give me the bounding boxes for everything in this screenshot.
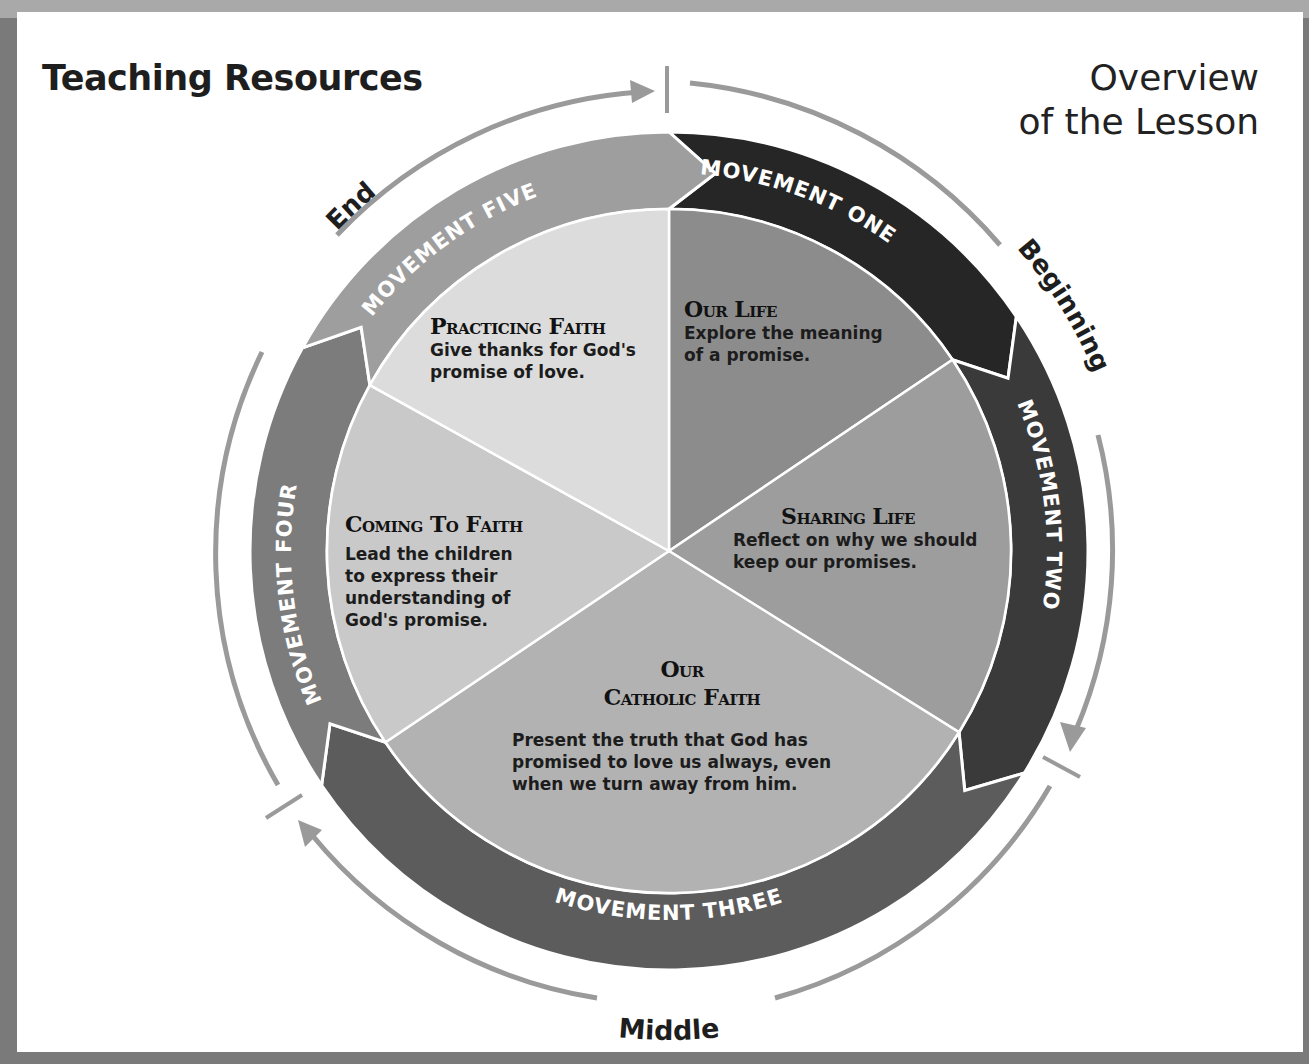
segment-practicing-faith: Practicing Faith Give thanks for God's p… [430, 313, 636, 383]
segment-heading: Sharing Life [733, 503, 978, 529]
tick-right [1043, 757, 1080, 777]
phase-label-middle: Middle [617, 1012, 720, 1046]
phase-label-end: End [320, 176, 381, 236]
lesson-wheel-diagram: Beginning End Middle MOVEMENT ONE MOVEME… [0, 0, 1309, 1064]
segment-heading: Coming To Faith [345, 511, 523, 537]
arrow-head-right [1060, 722, 1086, 752]
segment-sharing-life: Sharing Life Reflect on why we should ke… [733, 503, 978, 573]
segment-our-catholic-faith: Our Catholic Faith Present the truth tha… [512, 655, 872, 795]
arrow-head-top [630, 80, 655, 103]
segment-body: Present the truth that God has promised … [512, 729, 872, 795]
segment-body: Reflect on why we should keep our promis… [733, 529, 978, 573]
segment-coming-to-faith: Coming To Faith Lead the children to exp… [345, 511, 523, 631]
segment-our-life: Our Life Explore the meaning of a promis… [684, 296, 883, 366]
segment-heading: Practicing Faith [430, 313, 636, 339]
segment-body: Give thanks for God's promise of love. [430, 339, 636, 383]
segment-heading-line-1: Our [512, 655, 852, 683]
segment-body: Explore the meaning of a promise. [684, 322, 883, 366]
segment-heading-line-2: Catholic Faith [512, 683, 852, 711]
segment-body: Lead the children to express their under… [345, 543, 523, 631]
tick-left [266, 795, 302, 818]
segment-heading: Our Life [684, 296, 883, 322]
